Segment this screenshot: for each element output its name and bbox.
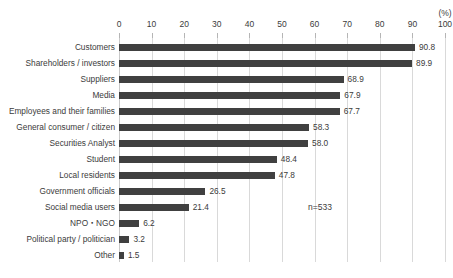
bar (119, 220, 139, 227)
bar-chart: (%) 0102030405060708090100Customers90.8S… (0, 0, 453, 278)
value-label: 1.5 (128, 250, 140, 261)
value-label: 48.4 (281, 154, 297, 165)
x-tick-label-60: 60 (300, 19, 330, 30)
value-label: 89.9 (416, 58, 432, 69)
x-tick-label-90: 90 (397, 19, 427, 30)
gridline-70 (347, 38, 348, 262)
bar (119, 172, 275, 179)
bar (119, 60, 412, 67)
bar (119, 188, 205, 195)
bar (119, 252, 124, 259)
x-tick-label-0: 0 (104, 19, 134, 30)
gridline-0 (119, 38, 120, 262)
x-tick-mark-100 (445, 33, 446, 38)
category-label: Customers (0, 42, 115, 53)
x-tick-mark-70 (347, 33, 348, 38)
category-label: Suppliers (0, 74, 115, 85)
x-tick-label-40: 40 (234, 19, 264, 30)
x-tick-label-70: 70 (332, 19, 362, 30)
axis-unit-label: (%) (430, 8, 453, 19)
x-tick-mark-40 (249, 33, 250, 38)
category-label: Government officials (0, 186, 115, 197)
value-label: 47.8 (279, 170, 295, 181)
category-label: NPO・NGO (0, 218, 115, 229)
category-label: Employees and their families (0, 106, 115, 117)
x-tick-mark-90 (412, 33, 413, 38)
category-label: Other (0, 250, 115, 261)
plot-area (119, 38, 445, 262)
gridline-20 (184, 38, 185, 262)
gridline-60 (315, 38, 316, 262)
value-label: 58.0 (312, 138, 328, 149)
value-label: 6.2 (143, 218, 155, 229)
gridline-30 (217, 38, 218, 262)
category-label: Shareholders / investors (0, 58, 115, 69)
bar (119, 124, 309, 131)
bar (119, 44, 415, 51)
bar (119, 108, 340, 115)
value-label: 58.3 (313, 122, 329, 133)
x-tick-mark-60 (315, 33, 316, 38)
gridline-80 (380, 38, 381, 262)
x-tick-label-30: 30 (202, 19, 232, 30)
bar (119, 204, 189, 211)
bar (119, 76, 344, 83)
x-tick-mark-20 (184, 33, 185, 38)
value-label: 67.7 (344, 106, 360, 117)
x-tick-mark-10 (152, 33, 153, 38)
x-tick-label-10: 10 (137, 19, 167, 30)
x-tick-label-50: 50 (267, 19, 297, 30)
value-label: 67.9 (344, 90, 360, 101)
category-label: Local residents (0, 170, 115, 181)
value-label: 3.2 (133, 234, 145, 245)
gridline-90 (412, 38, 413, 262)
bar (119, 92, 340, 99)
category-label: Political party / politician (0, 234, 115, 245)
value-label: 90.8 (419, 42, 435, 53)
x-tick-mark-30 (217, 33, 218, 38)
gridline-50 (282, 38, 283, 262)
category-label: Social media users (0, 202, 115, 213)
category-label: Securities Analyst (0, 138, 115, 149)
value-label: 26.5 (209, 186, 225, 197)
x-tick-mark-80 (380, 33, 381, 38)
category-label: General consumer / citizen (0, 122, 115, 133)
bar (119, 140, 308, 147)
x-tick-label-80: 80 (365, 19, 395, 30)
x-tick-mark-50 (282, 33, 283, 38)
x-tick-label-100: 100 (430, 19, 453, 30)
bar (119, 156, 277, 163)
category-label: Media (0, 90, 115, 101)
x-tick-mark-0 (119, 33, 120, 38)
gridline-100 (445, 38, 446, 262)
x-tick-label-20: 20 (169, 19, 199, 30)
category-label: Student (0, 154, 115, 165)
sample-size-annotation: n=533 (308, 202, 332, 212)
gridline-40 (249, 38, 250, 262)
value-label: 21.4 (193, 202, 209, 213)
bar (119, 236, 129, 243)
value-label: 68.9 (348, 74, 364, 85)
